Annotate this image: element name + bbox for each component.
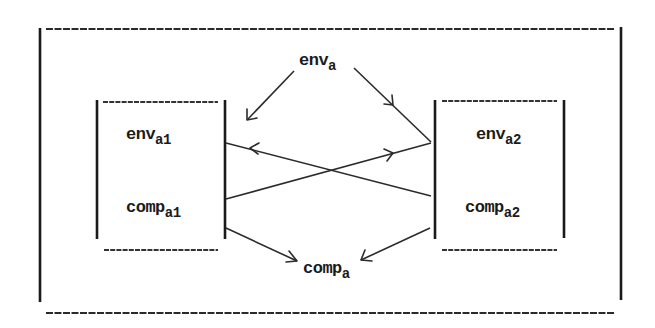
node-env-a1: enva1	[126, 126, 171, 147]
edge-a2-to-comp_a	[361, 228, 430, 261]
arrow-line	[226, 228, 297, 261]
arrowhead-icon	[250, 143, 259, 154]
node-base: env	[299, 51, 328, 70]
node-base: env	[476, 125, 505, 144]
node-subscript: a1	[165, 205, 181, 221]
node-subscript: a	[328, 58, 336, 74]
arrow-line	[361, 228, 430, 260]
node-subscript: a	[342, 266, 350, 282]
node-subscript: a2	[504, 205, 520, 221]
node-comp-a: compa	[303, 260, 350, 281]
node-comp-a1: compa1	[126, 199, 181, 220]
node-env-a2: enva2	[476, 126, 521, 147]
node-base: comp	[126, 198, 165, 217]
node-subscript: a2	[505, 132, 521, 148]
node-subscript: a1	[155, 132, 171, 148]
edge-a1-to-comp_a	[226, 228, 297, 262]
edge-env_a-to-a1	[247, 71, 294, 120]
component-a2-box	[435, 100, 564, 250]
node-base: comp	[303, 259, 342, 278]
edge-env_a-to-a2	[354, 68, 431, 142]
node-comp-a2: compa2	[465, 199, 520, 220]
node-env-a: enva	[299, 52, 336, 73]
arrow-line	[248, 71, 294, 119]
node-base: comp	[465, 198, 504, 217]
component-a1-box	[97, 100, 225, 250]
node-base: env	[126, 125, 155, 144]
